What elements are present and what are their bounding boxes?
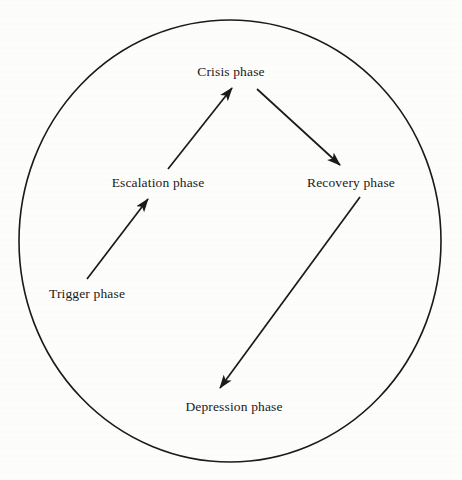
arrow-trigger-to-escalation xyxy=(87,199,148,279)
node-label-recovery: Recovery phase xyxy=(307,176,395,190)
node-label-depression: Depression phase xyxy=(185,400,282,414)
node-label-escalation: Escalation phase xyxy=(112,176,205,190)
arrow-crisis-to-recovery xyxy=(257,89,340,165)
boundary-circle xyxy=(19,20,441,462)
node-label-crisis: Crisis phase xyxy=(197,65,264,79)
arrow-recovery-to-depression xyxy=(220,197,360,388)
arrow-escalation-to-crisis xyxy=(168,88,232,169)
edge-layer xyxy=(87,88,360,388)
diagram-root: Crisis phaseEscalation phaseRecovery pha… xyxy=(0,0,462,480)
node-label-trigger: Trigger phase xyxy=(49,287,125,301)
